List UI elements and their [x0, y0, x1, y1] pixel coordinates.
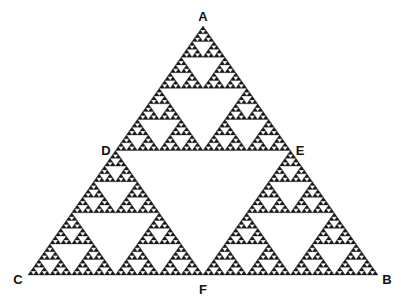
fractal-triangles	[28, 26, 378, 275]
label-d: D	[101, 143, 110, 158]
label-e: E	[296, 143, 305, 158]
label-b: B	[382, 272, 391, 287]
vertex-labels: A D E C B F	[13, 9, 391, 297]
label-f: F	[199, 282, 207, 297]
sierpinski-diagram: A D E C B F	[0, 0, 401, 300]
sierpinski-fractal	[28, 26, 378, 275]
label-a: A	[198, 9, 208, 24]
label-c: C	[13, 272, 23, 287]
